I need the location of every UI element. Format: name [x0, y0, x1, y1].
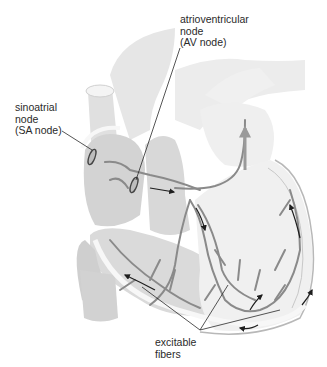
heart-illustration [0, 0, 327, 367]
left-atrium [200, 103, 274, 167]
av-node-label: atrioventricular node (AV node) [180, 14, 249, 49]
sa-node-label: sinoatrial node (SA node) [15, 102, 62, 137]
excitable-fibers-label: excitable fibers [155, 337, 196, 360]
